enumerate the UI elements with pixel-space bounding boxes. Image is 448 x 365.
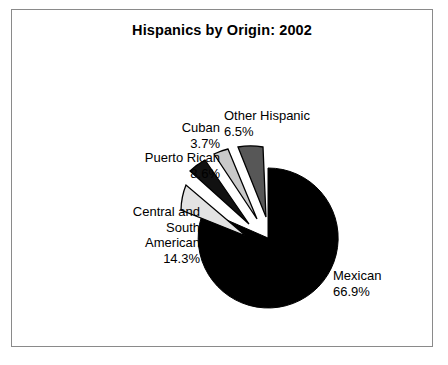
pie-label-central-south-american: Central and South American 14.3% bbox=[70, 204, 200, 266]
pie-label-puerto-rican: Puerto Rican 8.6% bbox=[80, 150, 220, 181]
pie-label-cuban: Cuban 3.7% bbox=[104, 120, 220, 151]
chart-figure: Hispanics by Origin: 2002 Mexican 66.9% … bbox=[0, 0, 448, 365]
pie-label-other-hispanic: Other Hispanic 6.5% bbox=[224, 108, 310, 139]
pie-label-mexican: Mexican 66.9% bbox=[333, 268, 381, 299]
